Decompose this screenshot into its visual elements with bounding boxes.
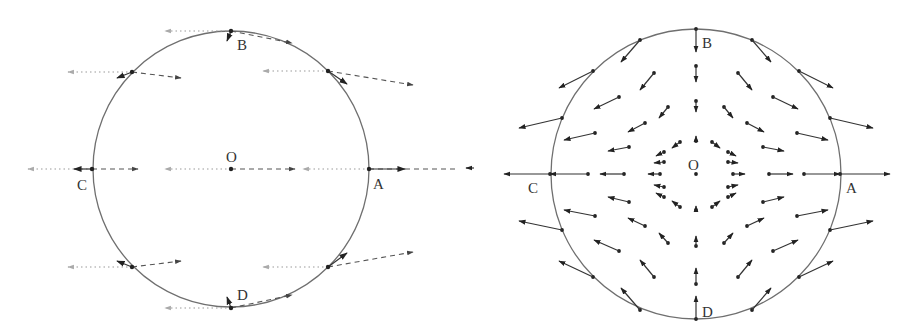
field-arrow	[656, 193, 664, 197]
field-arrow	[621, 40, 640, 62]
field-arrow	[738, 260, 752, 277]
dashed-arrow	[328, 71, 413, 85]
field-arrow	[763, 147, 784, 151]
field-arrow	[594, 97, 619, 109]
point	[130, 265, 134, 269]
field-arrow	[799, 71, 833, 88]
field-arrow	[519, 118, 562, 128]
field-arrow	[763, 197, 784, 202]
point	[130, 70, 134, 74]
point	[367, 167, 371, 171]
field-arrow	[672, 201, 680, 207]
field-arrow	[640, 73, 654, 90]
field-arrow	[773, 240, 798, 251]
field-arrow	[752, 288, 771, 310]
label-A: A	[373, 176, 384, 192]
field-arrow	[628, 123, 645, 132]
label-C: C	[77, 177, 87, 193]
field-arrow	[724, 107, 733, 118]
point	[229, 29, 233, 33]
right-labels: BOCAD	[528, 35, 857, 320]
left-diagram-canvas: BOCAD	[0, 0, 458, 336]
field-arrow	[724, 233, 733, 243]
field-arrow	[672, 142, 680, 148]
label-O: O	[226, 149, 237, 165]
field-arrow	[621, 288, 640, 310]
label-C: C	[528, 180, 538, 196]
field-arrow	[747, 218, 764, 226]
label-D: D	[237, 287, 248, 303]
field-arrow	[564, 133, 595, 140]
field-arrow	[712, 201, 720, 207]
right-diagram-canvas: BOCAD	[458, 0, 917, 336]
field-arrow	[830, 118, 873, 128]
left-diagram: BOCAD	[0, 0, 458, 336]
field-arrow	[799, 261, 833, 277]
field-arrow	[659, 233, 668, 243]
field-arrow	[559, 71, 593, 88]
dashed-arrow	[132, 72, 181, 78]
field-arrow	[797, 210, 828, 216]
field-arrow	[830, 221, 873, 230]
field-arrow	[564, 210, 595, 216]
label-D: D	[702, 304, 713, 320]
label-B: B	[702, 35, 712, 51]
right-vector-field-arrows	[504, 27, 890, 321]
field-arrow	[656, 152, 664, 156]
label-O: O	[688, 157, 699, 173]
field-arrow	[640, 260, 654, 277]
field-arrow	[608, 197, 629, 202]
point	[90, 167, 94, 171]
field-arrow	[752, 40, 771, 62]
dashed-arrow	[328, 252, 413, 267]
label-A: A	[846, 180, 857, 196]
point	[229, 306, 233, 310]
field-arrow	[519, 221, 562, 230]
right-diagram: BOCAD	[458, 0, 917, 336]
field-arrow	[559, 261, 593, 277]
field-arrow	[728, 193, 736, 197]
field-arrow	[594, 240, 619, 251]
label-B: B	[237, 37, 247, 53]
point	[326, 265, 330, 269]
point	[326, 69, 330, 73]
field-arrow	[773, 97, 798, 109]
field-arrow	[712, 142, 720, 148]
field-arrow	[738, 73, 752, 90]
field-arrow	[628, 218, 645, 226]
field-arrow	[728, 152, 736, 156]
field-arrow	[747, 123, 764, 132]
dashed-arrow	[132, 261, 181, 267]
field-arrow	[608, 147, 629, 151]
point	[229, 167, 233, 171]
field-arrow	[659, 107, 668, 118]
field-arrow	[797, 133, 828, 140]
